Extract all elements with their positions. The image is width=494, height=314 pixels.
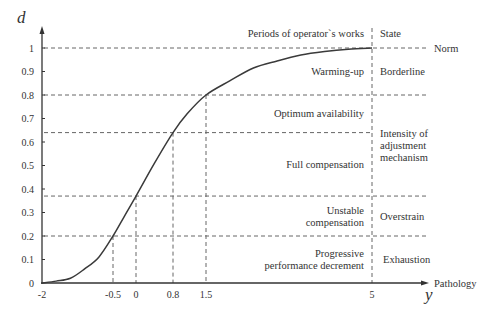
x-tick-label: -0.5: [105, 289, 121, 300]
region-labels: Warming-upOptimum availabilityFull compe…: [265, 43, 459, 272]
y-tick-label: 0.2: [22, 231, 35, 242]
period-label: Unstable: [327, 205, 365, 216]
period-label: Optimum availability: [274, 108, 365, 119]
y-tick-label: 0.6: [22, 137, 35, 148]
y-tick-label: 0.7: [22, 113, 35, 124]
reference-lines: [44, 28, 428, 283]
y-tick-label: 0: [29, 278, 34, 289]
x-tick-label: 0: [134, 289, 139, 300]
axes: [40, 26, 430, 286]
state-column-header: State: [380, 28, 401, 39]
state-label: mechanism: [380, 152, 428, 163]
x-tick-label: 1.5: [200, 289, 213, 300]
y-tick-label: 1: [29, 43, 34, 54]
state-label: Borderline: [380, 66, 425, 77]
y-tick-label: 0.5: [22, 160, 35, 171]
y-axis-title: d: [17, 8, 26, 27]
state-label: adjustment: [380, 140, 426, 151]
period-label: Full compensation: [286, 159, 365, 170]
y-tick-label: 0.9: [22, 66, 35, 77]
x-tick-label: 0.8: [167, 289, 180, 300]
y-axis-arrow-icon: [40, 26, 45, 34]
x-tick-label: 5: [370, 289, 375, 300]
period-label: Progressive: [315, 248, 364, 259]
x-tick-label: -2: [38, 289, 46, 300]
periods-column-header: Periods of operator`s works: [248, 28, 364, 39]
y-tick-label: 0.8: [22, 90, 35, 101]
x-axis-title: y: [423, 285, 433, 304]
x-axis-end-label: Pathology: [434, 278, 477, 289]
period-label: Warming-up: [311, 66, 364, 77]
period-label: performance decrement: [265, 260, 364, 271]
state-label: Overstrain: [380, 211, 425, 222]
norm-label: Norm: [434, 43, 459, 54]
y-tick-label: 0.3: [22, 207, 35, 218]
state-label: Exhaustion: [383, 254, 431, 265]
y-tick-label: 0.1: [22, 254, 35, 265]
sigmoid-chart: 00.10.20.30.40.50.60.70.80.91-2-0.500.81…: [0, 0, 494, 314]
state-label: Intensity of: [380, 128, 429, 139]
y-tick-label: 0.4: [22, 184, 35, 195]
period-label: compensation: [306, 217, 365, 228]
